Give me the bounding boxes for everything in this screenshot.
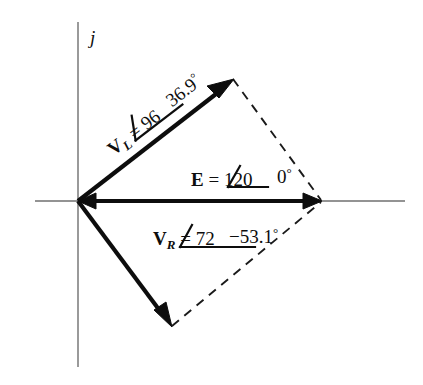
label-e-degree: ° [287,165,292,180]
label-vr-group: VR = 72 −53.1° [117,223,306,252]
label-vr-subscript: R [166,237,176,252]
label-vr-degree: ° [273,225,278,240]
vector-vr [78,201,172,327]
phasor-diagram-canvas: j VL = 96 36.9° E = 120 0° [0,0,423,385]
vector-vr-shaft [78,201,163,315]
vector-e-arrowhead [303,193,322,209]
label-e-symbol: E [191,169,204,190]
axes-group [35,22,405,367]
label-e-group: E = 120 0° [155,163,320,190]
label-vr-symbol: V [153,228,167,249]
vector-e [78,193,322,209]
label-vl-group: VL = 96 36.9° [71,51,231,183]
label-vr-angle-value: −53.1 [229,226,273,247]
label-vr-angle-text: −53.1° [193,223,306,247]
dashed-line-lower [172,202,321,326]
imaginary-axis-label: j [87,27,95,48]
label-e-equals: = [204,169,224,190]
vector-vl-arrowhead [207,79,234,98]
phasor-diagram-figure: j VL = 96 36.9° E = 120 0° [0,0,423,385]
label-e-angle-value: 0 [277,166,287,187]
